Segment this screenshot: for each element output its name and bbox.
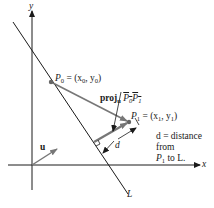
y-axis-label: y [29,2,33,12]
line-L [13,22,128,194]
point-p0 [49,80,53,84]
line-L-label: L [127,190,132,200]
p1-label: P1 = (x1, y1) [131,112,177,122]
x-axis-label: x [202,160,206,170]
distance-note-line1: d = distance [156,131,202,142]
distance-note: d = distance from P1 to L. [156,131,202,164]
diagram-canvas [0,0,214,208]
p0-label: P0 = (x0, y0) [55,74,101,84]
distance-dimension [103,118,139,153]
distance-note-line2: from [156,142,202,153]
projection-vector [94,123,127,142]
vector-u-label: u [40,143,45,153]
distance-note-line3: P1 to L. [156,153,202,164]
distance-d-label: d [115,141,120,151]
projection-label: proju P0P1 [100,94,141,104]
